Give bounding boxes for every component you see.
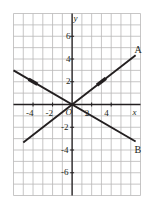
y-tick-label--4: -4 <box>61 146 69 155</box>
graph-canvas <box>0 0 154 219</box>
y-tick-label-6: 6 <box>66 32 71 41</box>
x-tick-label-2: 2 <box>85 109 90 118</box>
origin-label: O <box>66 108 73 117</box>
y-tick-label--6: -6 <box>61 168 69 177</box>
line-label-b: B <box>135 145 142 155</box>
line-label-a: A <box>135 45 142 55</box>
x-tick-label-4: 4 <box>104 109 109 118</box>
plotted-lines <box>14 55 136 142</box>
y-tick-label--2: -2 <box>61 123 69 132</box>
x-tick-label--4: -4 <box>26 109 34 118</box>
x-axis-label: x <box>133 108 137 117</box>
y-tick-label-2: 2 <box>66 77 71 86</box>
coordinate-plane-figure: -4 -2 2 4 6 4 2 -2 -4 -6 O x y A B <box>0 0 154 219</box>
y-axis-label: y <box>74 14 78 23</box>
y-tick-label-4: 4 <box>66 55 71 64</box>
x-tick-label--2: -2 <box>46 109 54 118</box>
